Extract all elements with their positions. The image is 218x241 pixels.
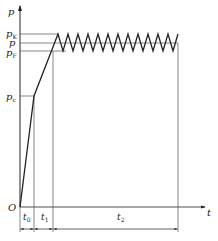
level-label-pc: pc (6, 91, 16, 103)
origin-label: O (8, 202, 16, 213)
pressure-curve (20, 34, 178, 207)
pressure-time-diagram: p t O pK p pF pc t0 t1 t2 (0, 0, 218, 241)
interval-label-t0: t0 (23, 212, 31, 223)
level-label-pF: pF (6, 47, 17, 59)
interval-label-t2: t2 (117, 212, 125, 223)
x-axis-label: t (207, 207, 212, 218)
y-axis-label: p (8, 6, 15, 17)
interval-label-t1: t1 (41, 212, 48, 223)
